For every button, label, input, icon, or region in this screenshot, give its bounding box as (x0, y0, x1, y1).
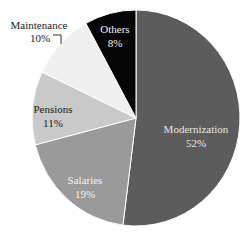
label-modernization-name: Modernization (164, 123, 229, 135)
label-maintenance: Maintenance 10% (11, 19, 68, 44)
label-others-name: Others (100, 23, 129, 35)
label-modernization-pct: 52% (186, 137, 206, 149)
maintenance-leader-line (53, 35, 61, 44)
label-salaries-name: Salaries (68, 174, 103, 186)
label-salaries-pct: 19% (75, 188, 95, 200)
pie-chart: Modernization 52% Salaries 19% Pensions … (0, 0, 251, 238)
label-others-pct: 8% (108, 37, 123, 49)
label-maintenance-name: Maintenance (11, 19, 68, 31)
pie-slices (32, 10, 240, 226)
label-pensions-pct: 11% (43, 117, 63, 129)
label-maintenance-pct: 10% (30, 32, 50, 44)
pie-slice-modernization (123, 10, 240, 226)
label-pensions-name: Pensions (33, 103, 72, 115)
